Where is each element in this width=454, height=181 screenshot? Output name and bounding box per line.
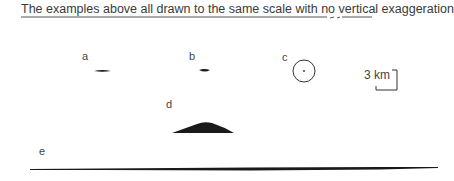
label-d: d [166,98,172,110]
label-c: c [282,51,288,63]
label-e: e [39,145,45,157]
profile-c-dot [303,70,305,72]
label-a: a [82,50,88,62]
profile-a [94,70,111,72]
profile-d [172,122,234,133]
scale-bar-label: 3 km [364,68,390,82]
profile-e [30,167,438,170]
label-b: b [189,50,195,62]
profile-b [199,69,210,72]
